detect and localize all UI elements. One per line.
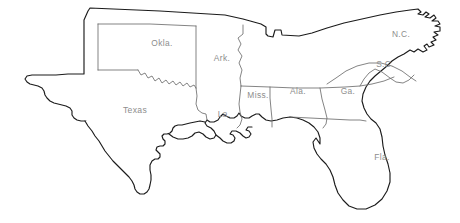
label-mississippi: Miss. <box>247 90 268 100</box>
mississippi-delta-detail <box>216 127 252 143</box>
landmass-outline <box>25 8 440 209</box>
label-georgia: Ga. <box>341 86 356 96</box>
label-louisiana: La. <box>218 109 231 119</box>
label-south-carolina: S.C. <box>376 59 394 69</box>
label-alabama: Ala. <box>290 86 306 96</box>
label-oklahoma: Okla. <box>151 38 172 48</box>
southern-us-outline-map: Okla. Ark. Texas La. Miss. Ala. Ga. N.C.… <box>0 0 460 223</box>
coastline-group <box>25 8 440 209</box>
label-texas: Texas <box>123 105 147 115</box>
label-north-carolina: N.C. <box>392 29 410 39</box>
label-florida: Fla. <box>374 152 389 162</box>
label-arkansas: Ark. <box>214 53 230 63</box>
map-container: Okla. Ark. Texas La. Miss. Ala. Ga. N.C.… <box>0 0 460 223</box>
